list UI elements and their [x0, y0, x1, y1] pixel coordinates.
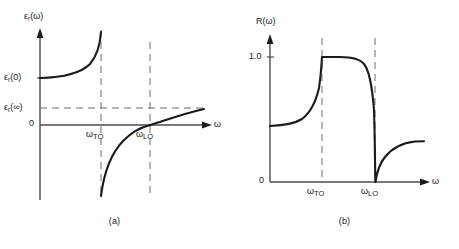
curve-epsilon-upper-branch-a	[101, 109, 204, 196]
y-axis-arrow-b	[267, 34, 274, 44]
curve-epsilon-lower-branch-a	[40, 32, 101, 78]
panel-b: R(ω) ω 1.0 0 ωTO ωLO	[230, 0, 459, 249]
x-axis-title-a: ω	[214, 120, 221, 129]
x-axis-title-b: ω	[432, 177, 439, 186]
ytick-label-one-b: 1.0	[249, 52, 262, 61]
xtick-omega-to-symbol-a: ω	[86, 129, 93, 139]
xtick-label-omega-to-b: ωTO	[307, 187, 324, 196]
xtick-omega-lo-sub-a: LO	[143, 132, 153, 141]
figure-container: εr(ω) ω εr(0) εr(∞) 0 ωTO ωLO	[0, 0, 459, 249]
ytick-eps-inf-sub: r	[8, 106, 10, 113]
xtick-omega-lo-sub-b: LO	[368, 189, 378, 198]
xtick-omega-lo-symbol-a: ω	[136, 129, 143, 139]
ytick-label-eps-zero-a: εr(0)	[4, 73, 21, 82]
x-axis-arrow-a	[202, 122, 212, 129]
y-axis-title-a: εr(ω)	[24, 12, 43, 21]
caption-panel-b: (b)	[230, 216, 459, 226]
y-axis-title-b: R(ω)	[256, 17, 276, 26]
panel-b-plot	[230, 0, 459, 249]
ytick-eps-zero-arg: (0)	[10, 72, 21, 82]
xtick-label-omega-to-a: ωTO	[86, 130, 103, 139]
x-axis-arrow-b	[420, 179, 430, 186]
y-axis-title-arg-a: (ω)	[30, 11, 43, 21]
panel-a-plot	[0, 0, 229, 249]
y-axis-title-sub-a: r	[28, 15, 30, 22]
y-axis-arrow-a	[37, 28, 44, 38]
caption-panel-a: (a)	[0, 216, 229, 226]
panel-a: εr(ω) ω εr(0) εr(∞) 0 ωTO ωLO	[0, 0, 229, 249]
ytick-label-zero-b: 0	[259, 176, 264, 185]
xtick-omega-to-sub-b: TO	[314, 189, 324, 198]
xtick-omega-to-symbol-b: ω	[307, 186, 314, 196]
xtick-label-omega-lo-a: ωLO	[136, 130, 153, 139]
xtick-omega-to-sub-a: TO	[93, 132, 103, 141]
curve-reflectivity-b	[270, 57, 424, 182]
ytick-label-eps-inf-a: εr(∞)	[4, 103, 23, 112]
xtick-omega-lo-symbol-b: ω	[361, 186, 368, 196]
xtick-label-omega-lo-b: ωLO	[361, 187, 378, 196]
ytick-eps-zero-sub: r	[8, 76, 10, 83]
ytick-label-zero-a: 0	[29, 119, 34, 128]
ytick-eps-inf-arg: (∞)	[10, 102, 22, 112]
